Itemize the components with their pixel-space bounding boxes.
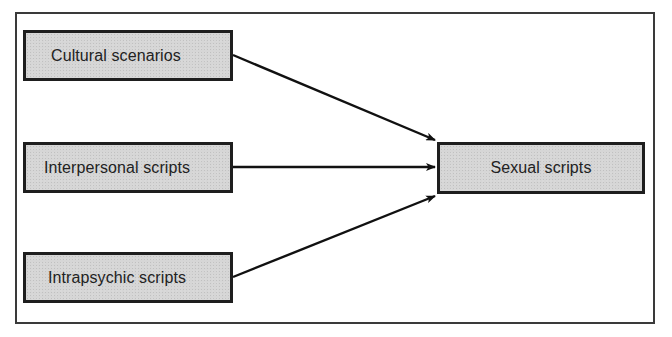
node-label: Intrapsychic scripts	[48, 269, 186, 287]
node-intrapsychic-scripts: Intrapsychic scripts	[23, 252, 233, 303]
node-cultural-scenarios: Cultural scenarios	[23, 30, 233, 81]
node-label: Sexual scripts	[491, 159, 592, 177]
node-sexual-scripts: Sexual scripts	[437, 142, 645, 194]
node-label: Interpersonal scripts	[44, 159, 190, 177]
node-interpersonal-scripts: Interpersonal scripts	[23, 142, 233, 193]
node-label: Cultural scenarios	[51, 47, 181, 65]
